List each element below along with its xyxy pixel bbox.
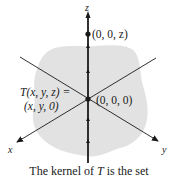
caption: The kernel of T is the set bbox=[0, 164, 178, 179]
transform-line-2: (x, y, 0) bbox=[24, 100, 58, 112]
y-axis-label: y bbox=[162, 144, 166, 156]
z-flow-arrow-icon bbox=[86, 44, 90, 48]
transform-line-1: T(x, y, z) = bbox=[20, 86, 70, 98]
kernel-point-label: (0, 0, z) bbox=[92, 28, 128, 40]
z-axis-label: z bbox=[85, 2, 89, 14]
x-axis-label: x bbox=[8, 144, 12, 156]
origin-label: (0, 0, 0) bbox=[96, 94, 132, 106]
origin-dot bbox=[85, 96, 90, 101]
kernel-point-dot bbox=[85, 31, 90, 36]
